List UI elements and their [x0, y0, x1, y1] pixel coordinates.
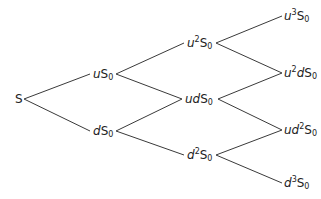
tree-node-d3S0: d3S0 — [284, 176, 309, 190]
tree-node-d2S0: d2S0 — [187, 148, 212, 162]
tree-node-u2S0: u2S0 — [187, 36, 212, 50]
edge-S-to-uS0 — [24, 74, 90, 99]
edge-d2S0-to-ud2S0 — [216, 130, 282, 155]
edge-udS0-to-ud2S0 — [218, 99, 282, 130]
edge-u2S0-to-u2dS0 — [216, 43, 282, 73]
edge-S-to-dS0 — [24, 99, 90, 131]
node-base: S — [304, 123, 312, 137]
node-base: S — [304, 66, 312, 80]
binomial-tree-diagram: S uS0 dS0 u2S0 udS0 d2S0 u3S0 u2dS0 ud2S… — [0, 0, 321, 199]
node-var: u — [284, 9, 292, 23]
node-subscript: 0 — [304, 15, 309, 24]
edge-udS0-to-u2dS0 — [218, 73, 282, 99]
node-subscript: 0 — [207, 154, 212, 163]
tree-node-ud2S0: ud2S0 — [284, 123, 317, 137]
node-var: ud — [185, 92, 200, 106]
node-var: u — [284, 66, 292, 80]
edge-dS0-to-udS0 — [116, 99, 182, 131]
tree-node-dS0: dS0 — [93, 124, 113, 138]
tree-node-uS0: uS0 — [93, 67, 113, 81]
edge-uS0-to-u2S0 — [116, 43, 184, 74]
node-subscript: 0 — [207, 42, 212, 51]
node-subscript: 0 — [304, 182, 309, 191]
edge-d2S0-to-d3S0 — [216, 155, 282, 183]
edge-u2S0-to-u3S0 — [216, 16, 282, 43]
node-subscript: 0 — [108, 130, 113, 139]
tree-edges — [0, 0, 321, 199]
node-var: d — [284, 176, 292, 190]
edge-uS0-to-udS0 — [116, 74, 182, 99]
node-subscript: 0 — [312, 72, 317, 81]
node-var: d — [93, 124, 101, 138]
node-var: d — [187, 148, 195, 162]
node-subscript: 0 — [312, 129, 317, 138]
edge-dS0-to-d2S0 — [116, 131, 184, 155]
tree-node-u3S0: u3S0 — [284, 9, 309, 23]
node-var: u — [93, 67, 101, 81]
tree-node-u2dS0: u2dS0 — [284, 66, 317, 80]
node-var: ud — [284, 123, 299, 137]
node-subscript: 0 — [208, 98, 213, 107]
tree-node-S: S — [15, 92, 23, 106]
tree-node-udS0: udS0 — [185, 92, 213, 106]
node-var: u — [187, 36, 195, 50]
node-subscript: 0 — [108, 73, 113, 82]
node-base: S — [15, 92, 23, 106]
node-base: S — [200, 92, 208, 106]
